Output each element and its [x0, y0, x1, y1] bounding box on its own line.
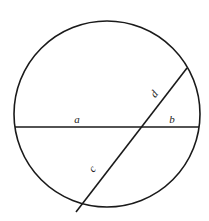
label-c: c — [86, 163, 99, 174]
label-d: d — [147, 87, 160, 99]
label-b: b — [169, 113, 175, 125]
diagonal-chord — [76, 68, 187, 212]
chords-diagram: a b c d — [0, 0, 209, 221]
label-a: a — [74, 113, 80, 125]
